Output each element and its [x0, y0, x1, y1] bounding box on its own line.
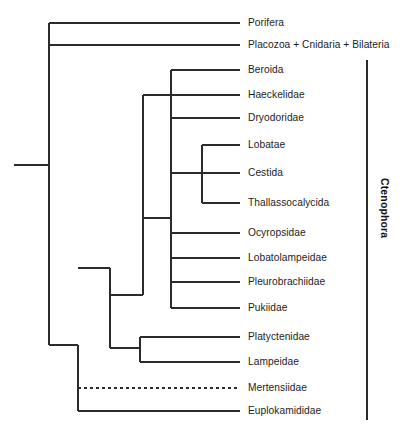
tip-label-lobatolampeidae: Lobatolampeidae — [248, 253, 327, 263]
tip-label-ocyropsidae: Ocyropsidae — [248, 228, 306, 238]
tip-label-euplokamididae: Euplokamididae — [248, 406, 321, 416]
tip-label-platyctenidae: Platyctenidae — [248, 332, 310, 342]
tip-label-beroida: Beroida — [248, 65, 283, 75]
tip-label-pleurobrachiidae: Pleurobrachiidae — [248, 277, 325, 287]
tip-label-cestida: Cestida — [248, 168, 283, 178]
tip-label-haeckelidae: Haeckelidae — [248, 90, 305, 100]
tip-label-porifera: Porifera — [248, 18, 284, 28]
tip-label-thallassocalycida: Thallassocalycida — [248, 198, 329, 208]
clade-label-ctenophora: Ctenophora — [379, 178, 390, 238]
tip-label-pukiidae: Pukiidae — [248, 303, 287, 313]
tip-label-placozoa-cnidaria-bilateria: Placozoa + Cnidaria + Bilateria — [248, 40, 389, 50]
tip-label-lobatae: Lobatae — [248, 140, 285, 150]
tip-label-dryodoridae: Dryodoridae — [248, 113, 304, 123]
tip-label-lampeidae: Lampeidae — [248, 357, 299, 367]
tip-label-mertensiidae: Mertensiidae — [248, 383, 307, 393]
tree-branches-svg — [0, 0, 413, 436]
phylogenetic-tree-figure: PoriferaPlacozoa + Cnidaria + BilateriaB… — [0, 0, 413, 436]
